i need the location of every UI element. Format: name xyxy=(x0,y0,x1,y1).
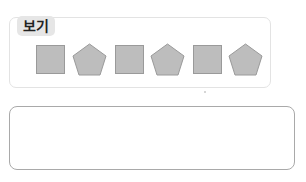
pentagon-shape-2 xyxy=(150,43,185,76)
stray-dot xyxy=(204,91,206,93)
example-label: 보기 xyxy=(17,16,55,36)
answer-box[interactable] xyxy=(9,106,295,170)
pentagon-shape-1 xyxy=(72,43,107,76)
square-shape-2 xyxy=(115,45,144,74)
square-shape-3 xyxy=(193,45,222,74)
square-shape-1 xyxy=(36,45,65,74)
pentagon-shape-3 xyxy=(228,43,263,76)
